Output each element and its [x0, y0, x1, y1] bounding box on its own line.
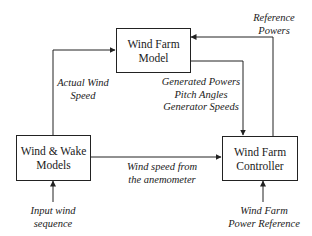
- label-line: sequence: [22, 218, 84, 231]
- block-label: Wind & Wake: [21, 144, 86, 158]
- label-line: Power Reference: [224, 218, 304, 231]
- actual-wind-label: Actual Wind Speed: [57, 77, 109, 102]
- label-line: Actual Wind: [57, 77, 109, 90]
- wind-farm-controller-block: Wind Farm Controller: [222, 136, 298, 181]
- reference-powers-label: Reference Powers: [243, 12, 305, 37]
- wind-wake-models-block: Wind & Wake Models: [16, 135, 91, 181]
- label-line: Speed: [57, 90, 109, 103]
- block-label: Models: [36, 158, 71, 172]
- label-line: Input wind: [22, 205, 84, 218]
- block-label: Model: [138, 51, 168, 65]
- measurements-label: Generated Powers Pitch Angles Generator …: [160, 76, 242, 114]
- label-line: Generated Powers: [160, 76, 242, 89]
- label-line: Wind Farm: [224, 205, 304, 218]
- block-label: Wind Farm: [234, 145, 286, 159]
- label-line: Wind speed from: [118, 161, 206, 174]
- block-label: Wind Farm: [127, 37, 179, 51]
- label-line: Reference: [243, 12, 305, 25]
- block-label: Controller: [236, 159, 283, 173]
- power-reference-label: Wind Farm Power Reference: [224, 205, 304, 230]
- label-line: Powers: [243, 25, 305, 38]
- wind-farm-model-block: Wind Farm Model: [116, 28, 191, 73]
- label-line: the anemometer: [118, 174, 206, 187]
- label-line: Generator Speeds: [160, 101, 242, 114]
- anemometer-label: Wind speed from the anemometer: [118, 161, 206, 186]
- label-line: Pitch Angles: [160, 89, 242, 102]
- input-wind-label: Input wind sequence: [22, 205, 84, 230]
